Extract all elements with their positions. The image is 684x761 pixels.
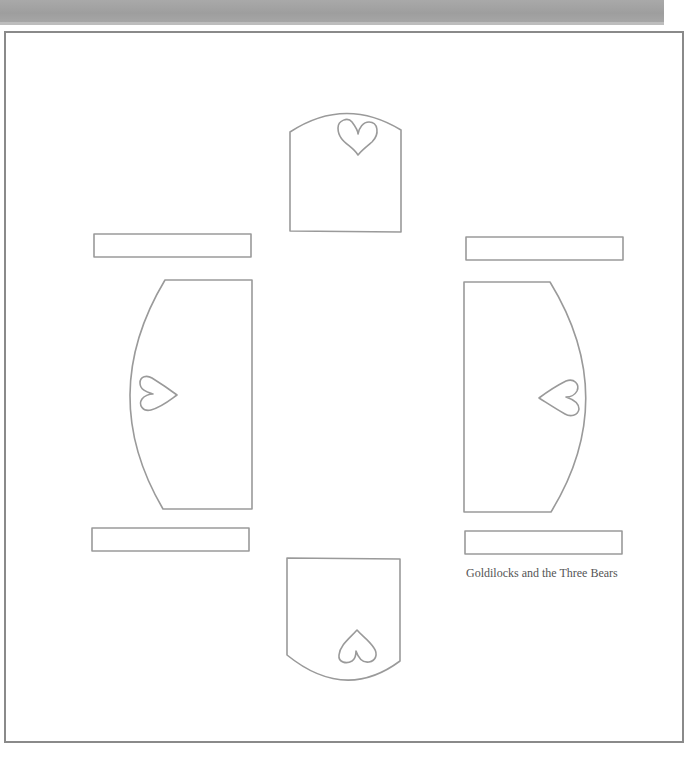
strip-top-right: [466, 237, 623, 260]
strip-bottom-left: [92, 528, 249, 551]
chair-back-top: [290, 113, 401, 232]
chair-back-bottom: [287, 558, 400, 680]
strip-bottom-right: [465, 531, 622, 554]
chair-side-left: [130, 280, 252, 509]
document-caption: Goldilocks and the Three Bears: [466, 566, 618, 581]
heart-icon: [338, 120, 377, 155]
heart-icon: [140, 376, 177, 410]
strip-top-left: [94, 234, 251, 257]
heart-icon: [339, 630, 376, 663]
heart-icon: [539, 380, 579, 415]
chair-side-right: [464, 282, 586, 512]
